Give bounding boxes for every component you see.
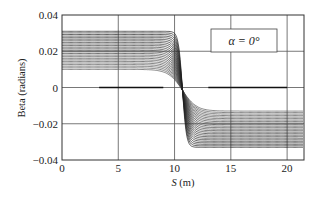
x-tick-label: 5: [116, 162, 122, 174]
beta-vs-s-chart: 0.040.020−0.02−0.04 05101520 α = 0° Beta…: [0, 0, 320, 205]
x-tick-label: 15: [225, 162, 237, 174]
y-tick-label: 0.02: [39, 45, 58, 57]
y-tick-label: −0.02: [33, 118, 58, 130]
x-tick-label: 0: [59, 162, 65, 174]
x-tick-label: 10: [169, 162, 181, 174]
legend-label: α = 0°: [228, 34, 259, 48]
y-axis-ticks: 0.040.020−0.02−0.04: [33, 9, 59, 166]
x-tick-label: 20: [282, 162, 294, 174]
y-tick-label: 0: [53, 82, 59, 94]
legend-box: α = 0°: [211, 29, 277, 52]
y-axis-label: Beta (radians): [16, 58, 28, 118]
y-tick-label: 0.04: [39, 9, 59, 21]
y-tick-label: −0.04: [33, 154, 59, 166]
x-axis-ticks: 05101520: [59, 162, 293, 174]
x-axis-label: S (m): [171, 177, 195, 189]
